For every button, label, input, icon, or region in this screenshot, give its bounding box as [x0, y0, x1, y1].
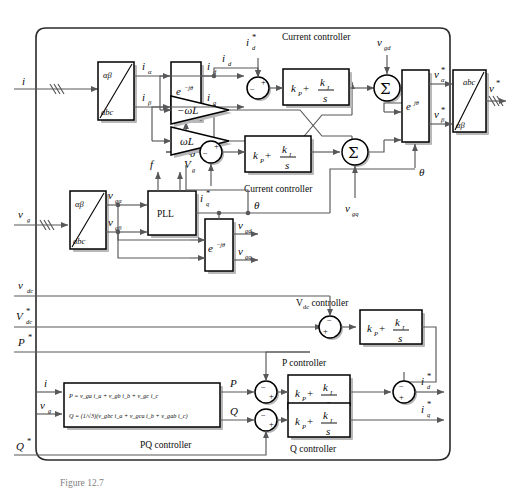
label-pll: PLL: [157, 209, 174, 219]
sign-vdc-minus: −: [327, 315, 332, 325]
label-v-alpha-star-sup: *: [441, 65, 445, 75]
label-input-p-ref-star: *: [28, 332, 32, 342]
label-current-park: e: [176, 85, 181, 97]
label-vgd-top-sub: gd: [384, 44, 391, 51]
label-inverse-park: e: [406, 100, 411, 112]
label-qc-den: s: [326, 425, 330, 437]
label-input-q-ref: Q: [16, 440, 24, 452]
label-ccq-kp-sub: P: [259, 157, 264, 164]
label-input-vdc-ref: V: [16, 310, 24, 322]
label-P: P: [229, 377, 237, 389]
sign-q-minus: −: [261, 410, 266, 420]
sign-id-plus: +: [261, 77, 266, 87]
label-grid-park: e: [208, 242, 213, 254]
label-vdc-den: s: [398, 332, 402, 344]
label-ccd-kp-sub: P: [297, 90, 302, 97]
label-vg-alpha: v: [108, 189, 113, 201]
label-input-vdc-ref-sub: dc: [26, 318, 32, 325]
figure-canvas: i v g v dc V dc * P * Q * αβ abc i α i β…: [0, 0, 509, 488]
label-pq-in-vg: v: [40, 399, 45, 411]
svg-text:+: +: [379, 322, 385, 334]
label-vgq-out-sub: gq: [245, 253, 252, 260]
label-input-p-ref: P: [17, 336, 25, 348]
label-input-vdc-ref-star: *: [26, 306, 30, 316]
label-id-star-out-sup: *: [427, 371, 431, 381]
label-output-transform-top: abc: [463, 77, 476, 87]
label-output-v-star: v: [489, 82, 494, 94]
label-i-d: i: [207, 60, 210, 72]
block-pq-controller: [64, 383, 223, 430]
label-pq-in-i: i: [44, 377, 47, 389]
label-vgq-bot-sub: gq: [352, 210, 359, 217]
label-id-star-out-sub: d: [427, 383, 431, 390]
sign-p-minus: −: [261, 382, 266, 392]
input-grid-voltage-line: [14, 220, 68, 230]
title-current-controller-d: Current controller: [282, 32, 351, 42]
block-diagram-svg: i v g v dc V dc * P * Q * αβ abc i α i β…: [0, 0, 509, 488]
label-id-ref: i: [246, 36, 249, 48]
label-theta-bus: θ: [254, 199, 260, 211]
label-positive-omega-l: ωL: [180, 135, 194, 147]
svg-text:+: +: [307, 387, 313, 399]
label-vgd-out-sub: gd: [245, 227, 252, 234]
label-input-grid-voltage-sub: g: [27, 216, 31, 223]
label-id-star-out: i: [421, 375, 424, 387]
label-iq-star-out-sub: q: [427, 411, 431, 418]
sum-q-error: [255, 409, 279, 433]
figure-caption: Figure 12.7: [60, 478, 104, 488]
label-Q: Q: [230, 405, 238, 417]
label-vg-alpha-sub: gα: [115, 197, 122, 204]
label-theta-ipark: θ: [419, 166, 425, 178]
label-current-transform-top: αβ: [103, 70, 112, 80]
label-vgd-out: v: [238, 219, 243, 231]
label-output-v-star-sup: *: [496, 78, 500, 88]
label-v-beta-star: v: [434, 108, 439, 120]
label-negative-omega-l: −ωL: [177, 104, 198, 116]
title-current-controller-q: Current controller: [244, 184, 313, 194]
label-i-alpha-sub: α: [148, 68, 152, 75]
label-voltage-transform-top: αβ: [75, 199, 84, 209]
svg-text:+: +: [307, 415, 313, 427]
label-v-beta-star-sub: β: [440, 116, 445, 123]
sign-vdc-plus: +: [323, 326, 328, 336]
line-theta-to-ipark-route: [330, 169, 415, 213]
title-p-controller: P controller: [282, 358, 327, 368]
line-route-q: [368, 140, 384, 152]
label-iq-star-out: i: [421, 403, 424, 415]
label-i-q: i: [207, 91, 210, 103]
sum-id-ref: [393, 381, 417, 405]
label-iq-ref-sub: q: [206, 200, 210, 207]
glyph-sigma-q: Σ: [348, 144, 359, 162]
label-vdc-kp-sub: P: [373, 330, 378, 337]
label-v-beta-star-sup: *: [441, 105, 445, 115]
svg-text:+: +: [265, 149, 271, 161]
label-input-vdc: v: [18, 279, 23, 291]
title-vdc-controller: Vdc controller: [296, 298, 349, 310]
label-i-d-fb: i: [222, 52, 225, 64]
label-inverse-park-exp: jθ: [413, 99, 419, 106]
sign-idref-minus: −: [399, 381, 404, 391]
sign-idref-plus: +: [399, 392, 404, 402]
label-vgd-top: v: [377, 36, 382, 48]
svg-text:+: +: [303, 82, 309, 94]
label-pq-in-vg-sub: g: [48, 407, 52, 414]
label-pll-f: f: [150, 158, 155, 170]
label-p-equation: P = v_ga i_a + v_gb i_b + v_gc i_c: [68, 392, 158, 399]
line-cross-neg-to-q-sum: [229, 110, 352, 136]
sum-p-error: [255, 381, 279, 405]
label-vg-beta-sub: gβ: [115, 224, 122, 231]
label-current-park-exp: −jθ: [184, 84, 193, 91]
label-voltage-transform-bottom: abc: [73, 236, 86, 246]
label-grid-park-exp: −jθ: [216, 241, 225, 248]
label-pc-kp-sub: P: [301, 395, 306, 402]
label-input-vdc-sub: dc: [27, 287, 33, 294]
input-current-line: [14, 84, 98, 94]
label-v-alpha-star-sub: α: [441, 76, 445, 83]
label-output-transform-bottom: αβ: [456, 120, 465, 130]
sign-q-plus: +: [269, 419, 274, 429]
node-theta-2: [217, 211, 222, 216]
label-ccd-den: s: [323, 92, 327, 104]
sign-p-plus: +: [269, 391, 274, 401]
label-vg-beta: v: [108, 216, 113, 228]
label-qc-kp-sub: P: [301, 423, 306, 430]
